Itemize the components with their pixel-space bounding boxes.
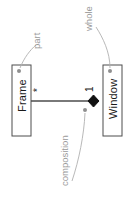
class-box-frame[interactable]: Frame <box>12 65 31 136</box>
composition-annotation-label: composition <box>59 135 70 186</box>
uml-diagram-svg: Frame Window * 1 part whole composition <box>0 0 126 213</box>
window-class-name: Window <box>107 79 119 119</box>
annotation-whole: whole <box>83 6 112 73</box>
annotation-composition: composition <box>59 108 87 186</box>
whole-annotation-label: whole <box>83 6 94 32</box>
frame-class-name: Frame <box>16 79 28 112</box>
whole-anchor-dot <box>108 69 112 73</box>
composition-leader-line <box>72 113 85 181</box>
whole-leader-line <box>96 27 110 68</box>
composition-anchor-dot <box>83 108 87 112</box>
uml-diagram-canvas: Frame Window * 1 part whole composition <box>0 0 126 213</box>
class-box-window[interactable]: Window <box>103 65 122 136</box>
part-annotation-label: part <box>31 32 42 49</box>
multiplicity-whole: 1 <box>84 86 95 92</box>
part-anchor-dot <box>17 69 21 73</box>
multiplicity-part: * <box>32 88 43 92</box>
composition-diamond-icon <box>88 95 99 107</box>
association-connector[interactable] <box>31 95 99 107</box>
